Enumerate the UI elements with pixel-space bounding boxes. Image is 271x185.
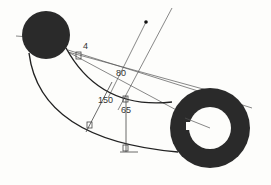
ring [170, 88, 250, 168]
dim-label-80: 80 [116, 68, 126, 78]
dim-label-65: 65 [121, 105, 131, 115]
dim-label-150: 150 [98, 95, 113, 105]
solid-circle [22, 11, 70, 59]
diagram-canvas: 4 80 150 65 [0, 0, 271, 185]
dim-label-4: 4 [83, 41, 88, 51]
ring-keyway-notch [186, 122, 191, 130]
center-point-dot [144, 20, 148, 24]
